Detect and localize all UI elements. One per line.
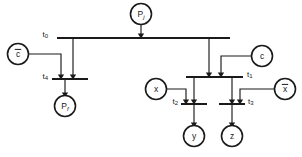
place-x-bar: x — [275, 79, 296, 100]
transition-t1: t1 — [186, 70, 253, 80]
transition-t1-label: t1 — [247, 70, 253, 80]
place-x: x — [146, 79, 167, 100]
place-y: y — [184, 126, 205, 147]
transition-t3-label: t3 — [248, 97, 254, 107]
place-pj: Pj — [131, 4, 152, 25]
place-pf: Pf — [55, 96, 76, 117]
transition-t3: t3 — [219, 97, 254, 107]
place-c: c — [252, 46, 273, 67]
petri-net-canvas: t0t4t1t2t3 PjcPfcxxyz — [0, 0, 302, 157]
place-c-bar: c — [8, 44, 29, 65]
transition-t0: t0 — [42, 30, 230, 40]
transition-t0-label: t0 — [42, 30, 48, 40]
transition-t4: t4 — [42, 72, 88, 82]
petri-net-diagram: t0t4t1t2t3 PjcPfcxxyz — [0, 0, 302, 157]
transition-t4-label: t4 — [42, 72, 48, 82]
arc-xbar-to-t3 — [240, 89, 275, 102]
transition-t2: t2 — [172, 97, 207, 107]
place-z-label: z — [230, 131, 234, 141]
transition-t2-label: t2 — [172, 97, 178, 107]
arc-cbar-to-t4 — [29, 54, 62, 77]
place-z: z — [222, 126, 243, 147]
